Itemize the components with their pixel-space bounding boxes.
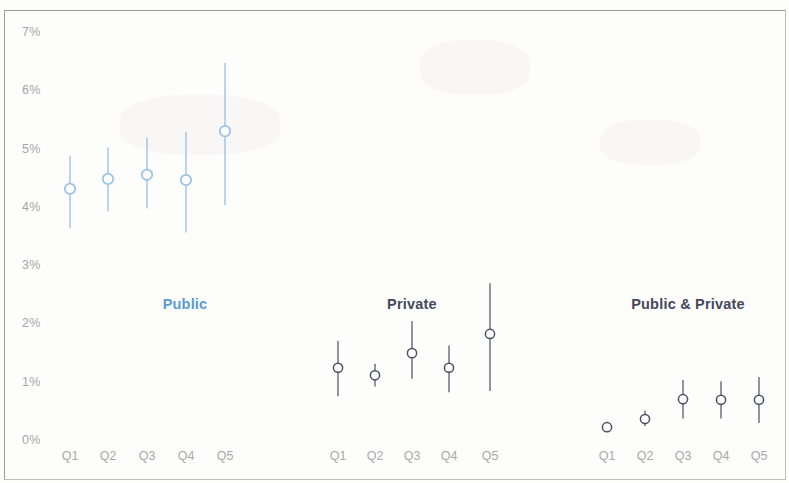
data-point-marker	[602, 423, 611, 432]
x-axis-tick-label: Q4	[713, 449, 730, 463]
data-point-marker	[716, 395, 725, 404]
data-point-marker	[142, 170, 152, 180]
x-axis-tick-label: Q3	[139, 449, 156, 463]
data-point-marker	[333, 363, 342, 372]
y-axis-tick-label: 6%	[22, 83, 40, 97]
group-label-public: Public	[163, 296, 208, 312]
data-point-marker	[370, 371, 379, 380]
x-axis-tick-label: Q1	[62, 449, 79, 463]
x-axis-tick-label: Q3	[404, 449, 421, 463]
data-point-marker	[65, 184, 75, 194]
x-axis-tick-label: Q3	[675, 449, 692, 463]
y-axis-tick-label: 7%	[22, 25, 40, 39]
y-axis-tick-label: 3%	[22, 258, 40, 272]
chart-figure: 0%1%2%3%4%5%6%7%PublicQ1Q2Q3Q4Q5PrivateQ…	[0, 0, 789, 483]
data-point-marker	[181, 175, 191, 185]
x-axis-tick-label: Q2	[637, 449, 654, 463]
data-point-marker	[407, 349, 416, 358]
data-point-marker	[678, 395, 687, 404]
x-axis-tick-label: Q1	[599, 449, 616, 463]
y-axis-tick-label: 5%	[22, 142, 40, 156]
y-axis-tick-label: 0%	[22, 433, 40, 447]
x-axis-tick-label: Q4	[441, 449, 458, 463]
group-label-private: Private	[387, 296, 437, 312]
data-point-marker	[444, 363, 453, 372]
x-axis-tick-label: Q4	[178, 449, 195, 463]
x-axis-tick-label: Q5	[482, 449, 499, 463]
x-axis-tick-label: Q5	[217, 449, 234, 463]
data-point-marker	[220, 126, 230, 136]
data-point-marker	[485, 329, 494, 338]
y-axis-tick-label: 4%	[22, 200, 40, 214]
data-point-marker	[103, 174, 113, 184]
x-axis-tick-label: Q2	[100, 449, 117, 463]
y-axis-tick-label: 1%	[22, 375, 40, 389]
error-bar-plot	[0, 0, 789, 483]
x-axis-tick-label: Q5	[751, 449, 768, 463]
x-axis-tick-label: Q1	[330, 449, 347, 463]
data-point-marker	[754, 395, 763, 404]
y-axis-tick-label: 2%	[22, 316, 40, 330]
data-point-marker	[640, 414, 649, 423]
group-label-public-private: Public & Private	[631, 296, 745, 312]
x-axis-tick-label: Q2	[367, 449, 384, 463]
